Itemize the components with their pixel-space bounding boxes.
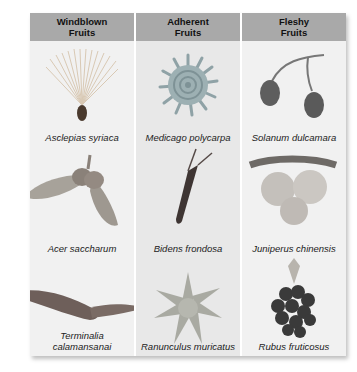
beggar-tick-icon <box>136 147 240 233</box>
juniper-cones-icon <box>242 147 346 233</box>
header-line: Fruits <box>281 27 307 38</box>
blackberry-icon <box>242 254 346 340</box>
spiral-burr-icon <box>136 41 240 127</box>
species-label: Acer saccharum <box>48 243 117 254</box>
header-line: Adherent <box>167 16 209 27</box>
column-adherent: Adherent Fruits Medicago polycarpa <box>136 13 240 356</box>
cell-rubus: Rubus fruticosus <box>242 258 346 356</box>
cell-acer: Acer saccharum <box>30 147 134 258</box>
winged-fruit-icon <box>30 262 134 348</box>
species-label: Solanum dulcamara <box>252 132 337 143</box>
cell-medicago: Medicago polycarpa <box>136 41 240 147</box>
header-adherent: Adherent Fruits <box>136 13 240 41</box>
cell-juniperus: Juniperus chinensis <box>242 147 346 258</box>
cell-asclepias: Asclepias syriaca <box>30 41 134 147</box>
milkweed-seed-icon <box>30 41 134 127</box>
column-windblown: Windblown Fruits Asclepias syriaca <box>30 13 134 356</box>
cell-solanum: Solanum dulcamara <box>242 41 346 147</box>
species-label: Medicago polycarpa <box>145 132 230 143</box>
maple-samara-icon <box>30 147 134 233</box>
header-line: Fruits <box>69 27 95 38</box>
header-windblown: Windblown Fruits <box>30 13 134 41</box>
cell-ranunculus: Ranunculus muricatus <box>136 258 240 356</box>
spiny-achene-icon <box>136 262 240 348</box>
fruit-dispersal-table: Windblown Fruits Asclepias syriaca <box>30 13 346 356</box>
berries-icon <box>242 41 346 127</box>
cell-terminalia: Terminalia calamansanai <box>30 258 134 356</box>
header-line: Windblown <box>57 16 108 27</box>
species-label: Juniperus chinensis <box>252 243 335 254</box>
header-line: Fruits <box>175 27 201 38</box>
cell-bidens: Bidens frondosa <box>136 147 240 258</box>
header-line: Fleshy <box>279 16 309 27</box>
species-label: Rubus fruticosus <box>259 341 330 352</box>
species-label: Asclepias syriaca <box>45 132 118 143</box>
species-label: Bidens frondosa <box>154 243 223 254</box>
column-fleshy: Fleshy Fruits Solanum dulcamara Juniperu… <box>242 13 346 356</box>
header-fleshy: Fleshy Fruits <box>242 13 346 41</box>
